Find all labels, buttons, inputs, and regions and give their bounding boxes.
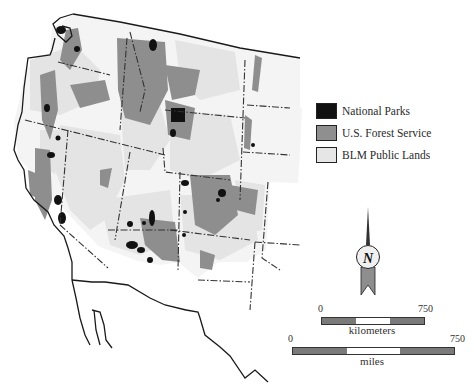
legend-label: BLM Public Lands (342, 149, 430, 161)
scale-end-label: 750 (418, 303, 433, 314)
legend-item-forest-service: U.S. Forest Service (316, 122, 431, 144)
blm-swatch (316, 147, 337, 163)
scale-end-label: 750 (450, 333, 465, 344)
scale-unit-label: miles (360, 355, 384, 367)
compass-letter: N (362, 251, 374, 266)
legend-label: National Parks (342, 105, 410, 117)
scale-bar (292, 347, 455, 355)
north-arrow-icon: N (348, 205, 388, 300)
scale-start-label: 0 (288, 333, 293, 344)
scale-unit-label: kilometers (349, 324, 395, 336)
legend: National Parks U.S. Forest Service BLM P… (316, 100, 431, 166)
national-parks-swatch (316, 103, 337, 119)
western-us-federal-lands-map (0, 0, 474, 392)
scale-start-label: 0 (318, 303, 323, 314)
forest-service-swatch (316, 125, 337, 141)
legend-item-blm: BLM Public Lands (316, 144, 431, 166)
legend-item-national-parks: National Parks (316, 100, 431, 122)
legend-label: U.S. Forest Service (342, 127, 431, 139)
